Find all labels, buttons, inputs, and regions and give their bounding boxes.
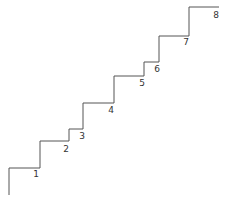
step-label-8: 8 bbox=[213, 10, 219, 20]
step-label-7: 7 bbox=[183, 37, 189, 47]
staircase-diagram: 1 2 3 4 5 6 7 8 bbox=[0, 0, 233, 205]
step-label-3: 3 bbox=[79, 131, 85, 141]
step-label-1: 1 bbox=[33, 169, 39, 179]
step-label-6: 6 bbox=[154, 64, 160, 74]
staircase-line bbox=[9, 7, 219, 195]
step-label-5: 5 bbox=[139, 78, 145, 88]
step-label-4: 4 bbox=[108, 105, 114, 115]
step-label-2: 2 bbox=[63, 144, 69, 154]
